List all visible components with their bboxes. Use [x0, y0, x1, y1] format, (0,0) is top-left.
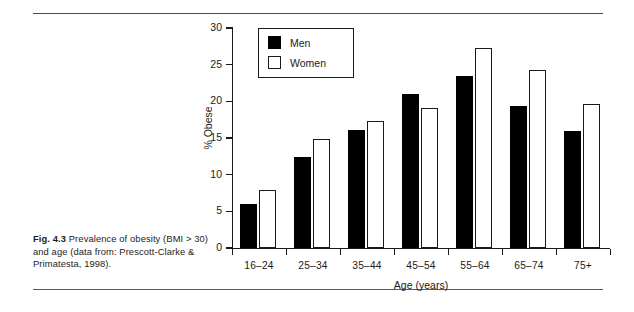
- y-axis-line: [232, 27, 233, 249]
- y-tick-label-20: 20: [196, 94, 222, 106]
- bar-women-16–24: [259, 190, 276, 248]
- bar-men-55–64: [456, 76, 473, 248]
- x-tick-3: [394, 249, 395, 255]
- y-tick-label-15: 15: [196, 131, 222, 143]
- y-tick-label-5: 5: [196, 204, 222, 216]
- bar-men-75+: [564, 131, 581, 248]
- x-axis-label-2: 35–44: [340, 260, 394, 271]
- x-tick-1: [286, 249, 287, 255]
- chart-legend: Men Women: [258, 28, 354, 78]
- bar-women-35–44: [367, 121, 384, 248]
- bar-men-35–44: [348, 130, 365, 248]
- legend-item-men: Men: [268, 36, 310, 49]
- x-tick-6: [556, 249, 557, 255]
- x-tick-7: [610, 249, 611, 255]
- bar-women-65–74: [529, 70, 546, 248]
- figure-caption: Fig. 4.3 Prevalence of obesity (BMI > 30…: [33, 233, 209, 271]
- x-tick-0: [232, 249, 233, 255]
- bar-men-45–54: [402, 94, 419, 248]
- bar-women-25–34: [313, 139, 330, 248]
- legend-swatch-men-icon: [268, 36, 281, 49]
- x-axis-title: Age (years): [232, 279, 610, 291]
- x-axis-label-6: 75+: [556, 260, 610, 271]
- figure-label: Fig. 4.3: [33, 233, 66, 244]
- y-tick-label-25: 25: [196, 58, 222, 70]
- x-axis-label-5: 65–74: [502, 260, 556, 271]
- y-tick-20: [226, 101, 232, 102]
- bar-women-75+: [583, 104, 600, 248]
- bar-chart: % Obese 051015202530 16–2425–3435–4445–5…: [196, 14, 626, 286]
- x-axis-label-1: 25–34: [286, 260, 340, 271]
- x-axis-line: [232, 248, 610, 249]
- y-tick-15: [226, 137, 232, 138]
- y-tick-25: [226, 64, 232, 65]
- bar-men-65–74: [510, 106, 527, 248]
- x-tick-5: [502, 249, 503, 255]
- bar-men-16–24: [240, 204, 257, 248]
- x-axis-label-3: 45–54: [394, 260, 448, 271]
- y-tick-label-30: 30: [196, 21, 222, 33]
- bar-women-55–64: [475, 48, 492, 248]
- legend-swatch-women-icon: [268, 56, 281, 69]
- y-tick-30: [226, 27, 232, 28]
- x-axis-label-0: 16–24: [232, 260, 286, 271]
- y-tick-10: [226, 174, 232, 175]
- x-tick-2: [340, 249, 341, 255]
- bar-men-25–34: [294, 157, 311, 248]
- legend-item-women: Women: [268, 56, 326, 69]
- y-tick-label-10: 10: [196, 168, 222, 180]
- x-tick-4: [448, 249, 449, 255]
- y-tick-label-0: 0: [196, 241, 222, 253]
- legend-label-men: Men: [290, 37, 310, 49]
- y-tick-5: [226, 211, 232, 212]
- x-axis-label-4: 55–64: [448, 260, 502, 271]
- bar-women-45–54: [421, 108, 438, 248]
- legend-label-women: Women: [290, 57, 326, 69]
